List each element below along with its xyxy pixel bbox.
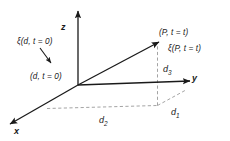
y-axis-label: y [192,74,197,83]
x-axis-label: x [14,127,19,136]
d1-subscript: 1 [176,112,180,119]
p-t-t-label: (P, t = t) [159,29,188,37]
z-axis-label: z [61,23,66,32]
xi-d-annotation-arrow [40,48,51,63]
projection-dashed-lines [47,44,185,109]
d-t0-label: (d, t = 0) [30,73,62,81]
x-axis [10,85,78,124]
d1-label: d1 [171,108,180,119]
d2-label: d2 [99,116,108,127]
xi-p-t-t-label: ξ(P, t = t) [168,45,201,53]
position-vector-to-p [78,42,159,85]
d2-dashed-line [47,106,158,109]
figure-canvas: z y x ξ(d, t = 0) (d, t = 0) (P, t = t) … [0,0,230,141]
y-axis [78,81,190,85]
d1-dashed-line [158,91,186,106]
coordinate-diagram [0,0,230,141]
d3-label: d3 [163,65,172,76]
d3-subscript: 3 [168,69,172,76]
xi-d-t0-label: ξ(d, t = 0) [17,38,52,46]
d2-subscript: 2 [104,120,108,127]
